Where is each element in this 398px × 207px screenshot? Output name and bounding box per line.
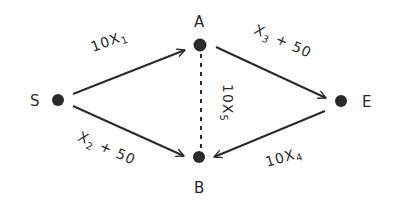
node-s: S xyxy=(30,92,64,110)
svg-text:10X1: 10X1 xyxy=(89,27,131,57)
node-e: E xyxy=(335,93,371,111)
node-a: A xyxy=(194,13,207,52)
network-diagram: S A E B 10X1 X2 + 50 X3 + 50 10X4 10X5 xyxy=(0,0,398,207)
node-a-label: A xyxy=(194,13,205,31)
svg-text:X2 + 50: X2 + 50 xyxy=(75,128,139,170)
edge-label-e-b: 10X4 xyxy=(263,144,304,172)
svg-text:10X4: 10X4 xyxy=(263,144,304,172)
edge-label-a-e: X3 + 50 xyxy=(251,21,315,63)
node-b: B xyxy=(193,151,205,197)
svg-text:10X5: 10X5 xyxy=(218,84,236,122)
node-s-label: S xyxy=(30,92,40,110)
edge-label-s-a: 10X1 xyxy=(89,27,131,57)
edge-e-b xyxy=(214,111,325,157)
edge-s-a xyxy=(73,50,185,94)
node-b-label: B xyxy=(194,179,204,197)
edge-label-a-b: 10X5 xyxy=(218,84,236,122)
edge-label-s-b: X2 + 50 xyxy=(75,128,139,170)
node-e-label: E xyxy=(362,93,371,111)
svg-text:X3 + 50: X3 + 50 xyxy=(251,21,315,63)
